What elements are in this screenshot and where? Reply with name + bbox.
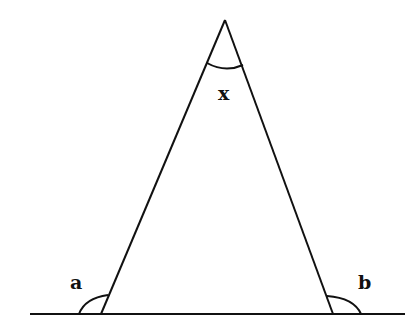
left-side <box>101 20 225 314</box>
label-x: x <box>218 82 230 104</box>
label-a: a <box>70 271 82 293</box>
left-exterior-angle-arc <box>79 295 108 314</box>
label-b: b <box>358 271 371 293</box>
right-side <box>225 20 333 314</box>
apex-angle-arc <box>207 63 243 69</box>
triangle-diagram: x a b <box>0 0 418 334</box>
